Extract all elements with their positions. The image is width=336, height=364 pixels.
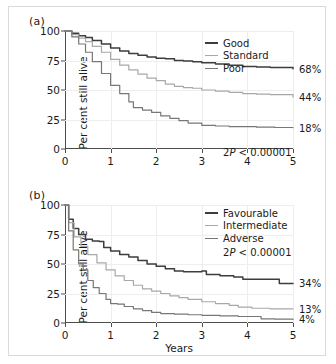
x-tick-mark — [293, 149, 294, 153]
y-tick-label: 25 — [47, 288, 60, 300]
x-tick-label: 0 — [62, 155, 69, 167]
legend-swatch-poor — [205, 68, 218, 69]
legend-item-good: Good — [205, 37, 269, 50]
panel-b: (b) Per cent still alive 0255075100 0123… — [9, 181, 327, 356]
x-tick-mark — [156, 149, 157, 153]
curve-end-label: 44% — [299, 92, 321, 103]
y-tick-label: 0 — [53, 317, 60, 329]
legend-label-standard: Standard — [223, 50, 269, 61]
legend-swatch-favourable — [205, 212, 218, 214]
x-tick-label: 3 — [198, 155, 205, 167]
y-tick-label: 25 — [47, 114, 60, 126]
curve-end-label: 34% — [299, 278, 321, 289]
panel-b-pvalue: 2P < 0.00001 — [223, 247, 292, 258]
x-tick-label: 1 — [107, 329, 114, 341]
panel-a: (a) Per cent still alive 0255075100 0123… — [9, 7, 327, 182]
legend-label-adverse: Adverse — [223, 233, 264, 244]
panel-a-pvalue: 2P < 0.00001 — [223, 147, 292, 158]
x-tick-mark — [202, 149, 203, 153]
y-tick-label: 75 — [47, 55, 60, 67]
legend-item-adverse: Adverse — [205, 232, 288, 245]
x-tick-label: 0 — [62, 329, 69, 341]
panel-b-x-axis-label: Years — [165, 342, 193, 354]
legend-item-intermediate: Intermediate — [205, 220, 288, 233]
legend-swatch-adverse — [205, 238, 218, 239]
y-tick-label: 100 — [40, 199, 60, 211]
x-tick-mark — [111, 323, 112, 327]
legend-label-good: Good — [223, 38, 249, 49]
panel-a-legend: Good Standard Poor — [205, 37, 269, 75]
legend-swatch-intermediate — [205, 225, 218, 226]
x-tick-label: 1 — [107, 155, 114, 167]
curve-end-label: 4% — [299, 314, 315, 325]
x-tick-label: 3 — [198, 329, 205, 341]
y-tick-label: 100 — [40, 25, 60, 37]
x-tick-mark — [247, 323, 248, 327]
legend-item-standard: Standard — [205, 50, 269, 63]
x-tick-label: 2 — [153, 329, 160, 341]
legend-label-intermediate: Intermediate — [223, 220, 288, 231]
y-tick-label: 0 — [53, 143, 60, 155]
x-tick-label: 5 — [290, 329, 297, 341]
curve-end-label: 13% — [299, 303, 321, 314]
x-tick-mark — [202, 323, 203, 327]
legend-label-favourable: Favourable — [223, 208, 278, 219]
legend-swatch-good — [205, 42, 218, 44]
x-tick-mark — [111, 149, 112, 153]
survival-figure: (a) Per cent still alive 0255075100 0123… — [8, 6, 326, 356]
gridline-vertical — [293, 205, 294, 323]
panel-b-legend: Favourable Intermediate Adverse — [205, 207, 288, 245]
legend-item-favourable: Favourable — [205, 207, 288, 220]
x-tick-mark — [65, 149, 66, 153]
legend-swatch-standard — [205, 55, 218, 56]
legend-item-poor: Poor — [205, 62, 269, 75]
legend-label-poor: Poor — [223, 63, 245, 74]
y-tick-label: 50 — [47, 84, 60, 96]
x-tick-label: 4 — [244, 329, 251, 341]
x-tick-label: 2 — [153, 155, 160, 167]
x-tick-mark — [293, 323, 294, 327]
x-tick-mark — [65, 323, 66, 327]
x-tick-mark — [156, 323, 157, 327]
y-tick-label: 50 — [47, 258, 60, 270]
y-tick-label: 75 — [47, 229, 60, 241]
gridline-vertical — [293, 31, 294, 149]
curve-end-label: 68% — [299, 63, 321, 74]
curve-end-label: 18% — [299, 122, 321, 133]
